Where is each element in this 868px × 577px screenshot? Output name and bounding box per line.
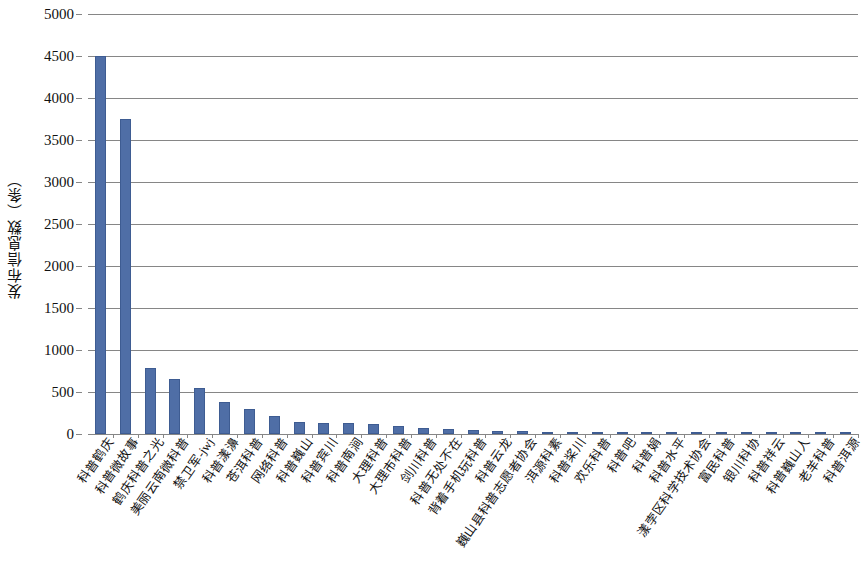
y-axis-tick-label: 1500 [44,301,74,316]
y-axis-tick-mark [76,392,82,393]
bar[interactable] [368,424,379,434]
bar[interactable] [691,432,702,434]
bar[interactable] [517,431,528,434]
gridline [88,434,858,435]
y-axis-tick-mark [76,224,82,225]
bar-chart: 发布信息数（条） 0500100015002000250030003500400… [0,0,868,577]
bar[interactable] [666,432,677,434]
y-axis-tick-mark [76,350,82,351]
bar[interactable] [492,431,503,434]
bar[interactable] [542,432,553,434]
plot-area [88,14,858,434]
bar[interactable] [567,432,578,434]
y-axis-tick-label: 1000 [44,343,74,358]
y-axis-tick-mark [76,182,82,183]
bar[interactable] [294,422,305,434]
bar[interactable] [95,56,106,434]
bar[interactable] [766,432,777,434]
y-axis-tick-mark [76,266,82,267]
y-axis-tick-label: 0 [67,427,75,442]
bar[interactable] [790,432,801,434]
bar[interactable] [741,432,752,434]
y-axis-tick-mark [76,56,82,57]
y-axis-tick-mark [76,98,82,99]
bar[interactable] [815,432,826,434]
bar[interactable] [468,430,479,434]
y-axis-tick-label: 5000 [44,7,74,22]
bar[interactable] [617,432,628,434]
y-axis-tick-label: 3500 [44,133,74,148]
bar[interactable] [343,423,354,434]
bar[interactable] [244,409,255,434]
y-axis-tick-label: 2000 [44,259,74,274]
y-axis-tick-label: 2500 [44,217,74,232]
y-axis-tick-mark [76,434,82,435]
bar[interactable] [120,119,131,434]
y-axis-tick-label: 4000 [44,91,74,106]
bar[interactable] [219,402,230,434]
y-axis-tick-label: 500 [52,385,75,400]
bar[interactable] [418,428,429,434]
bar[interactable] [269,416,280,434]
y-axis-tick-mark [76,14,82,15]
y-axis-tick-labels: 0500100015002000250030003500400045005000 [28,14,82,434]
bar[interactable] [194,388,205,434]
bar[interactable] [716,432,727,434]
y-axis-title: 发布信息数（条） [2,120,28,350]
bar[interactable] [393,426,404,434]
bar[interactable] [318,423,329,434]
bar[interactable] [169,379,180,434]
bar[interactable] [592,432,603,434]
bar[interactable] [641,432,652,434]
bars-container [88,14,858,434]
y-axis-tick-label: 3000 [44,175,74,190]
bar[interactable] [443,429,454,434]
y-axis-tick-label: 4500 [44,49,74,64]
x-axis-tick-labels: 科普鹤庆科普微故事鹤庆科普之光美丽云南微科普禁卫军-jwj科普漾濞苍洱科普网络科… [88,436,868,577]
y-axis-tick-mark [76,140,82,141]
y-axis-tick-mark [76,308,82,309]
bar[interactable] [145,368,156,434]
bar[interactable] [840,432,851,434]
